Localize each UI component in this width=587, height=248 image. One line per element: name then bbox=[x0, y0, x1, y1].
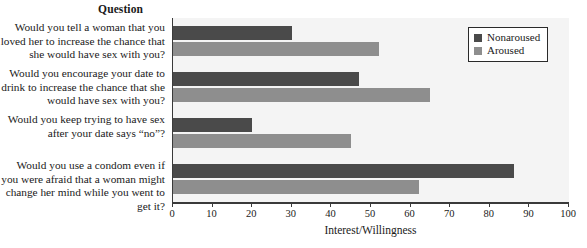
legend-swatch-nonaroused bbox=[474, 34, 482, 42]
bar-group bbox=[173, 110, 569, 156]
x-tick-90 bbox=[528, 202, 529, 207]
chart-container: Question Would you tell a woman that you… bbox=[0, 0, 587, 248]
bar-aroused-4[interactable] bbox=[173, 180, 419, 194]
category-label-1: Would you tell a woman that you loved he… bbox=[0, 21, 172, 62]
bar-nonaroused-2[interactable] bbox=[173, 72, 359, 86]
bar-group bbox=[173, 64, 569, 110]
bar-aroused-2[interactable] bbox=[173, 88, 430, 102]
x-tick-30 bbox=[291, 202, 292, 207]
legend-label-nonaroused: Nonaroused bbox=[487, 31, 540, 44]
x-tick-label-90: 90 bbox=[508, 208, 548, 219]
legend-item-nonaroused[interactable]: Nonaroused bbox=[474, 31, 540, 44]
x-tick-label-80: 80 bbox=[469, 208, 509, 219]
x-tick-label-70: 70 bbox=[429, 208, 469, 219]
x-tick-10 bbox=[212, 202, 213, 207]
legend-swatch-aroused bbox=[474, 47, 482, 55]
x-tick-label-20: 20 bbox=[231, 208, 271, 219]
x-tick-80 bbox=[489, 202, 490, 207]
chart-legend: Nonaroused Aroused bbox=[468, 27, 548, 62]
x-tick-label-0: 0 bbox=[152, 208, 192, 219]
bar-nonaroused-3[interactable] bbox=[173, 118, 252, 132]
legend-label-aroused: Aroused bbox=[487, 44, 524, 57]
x-tick-40 bbox=[330, 202, 331, 207]
bar-nonaroused-1[interactable] bbox=[173, 26, 292, 40]
bar-aroused-1[interactable] bbox=[173, 42, 379, 56]
category-label-3: Would you keep trying to have sex after … bbox=[0, 113, 172, 140]
x-tick-label-100: 100 bbox=[548, 208, 587, 219]
x-tick-50 bbox=[370, 202, 371, 207]
bar-group bbox=[173, 156, 569, 202]
x-tick-20 bbox=[251, 202, 252, 207]
x-tick-0 bbox=[172, 202, 173, 207]
x-tick-label-10: 10 bbox=[192, 208, 232, 219]
x-tick-label-40: 40 bbox=[310, 208, 350, 219]
question-column-header: Question bbox=[0, 3, 179, 15]
bar-aroused-3[interactable] bbox=[173, 134, 351, 148]
x-tick-label-50: 50 bbox=[350, 208, 390, 219]
category-label-4: Would you use a condom even if you were … bbox=[0, 159, 172, 213]
bar-nonaroused-4[interactable] bbox=[173, 164, 514, 178]
x-tick-label-60: 60 bbox=[390, 208, 430, 219]
x-axis-title: Interest/Willingness bbox=[172, 224, 569, 236]
x-tick-100 bbox=[568, 202, 569, 207]
x-tick-60 bbox=[410, 202, 411, 207]
x-tick-70 bbox=[449, 202, 450, 207]
x-tick-label-30: 30 bbox=[271, 208, 311, 219]
legend-item-aroused[interactable]: Aroused bbox=[474, 44, 540, 57]
category-label-2: Would you encourage your date to drink t… bbox=[0, 67, 172, 108]
